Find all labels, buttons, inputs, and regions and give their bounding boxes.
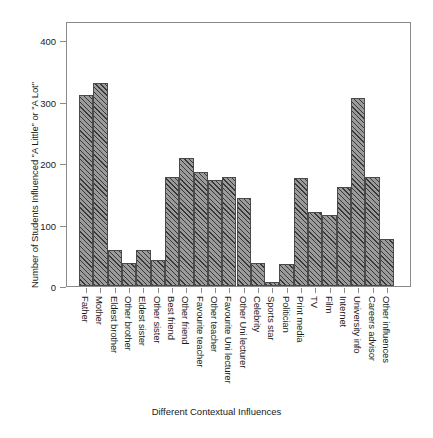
- bar-chart-figure: Number of Students Influenced "A Little"…: [0, 0, 433, 438]
- x-axis-title: Different Contextual Influences: [0, 406, 433, 417]
- x-axis-tick-label: Eldest sister: [137, 296, 147, 346]
- bar[interactable]: [179, 158, 193, 286]
- x-axis-tick-label: Other brother: [123, 296, 133, 351]
- x-axis-tick-label: Politician: [281, 296, 291, 333]
- bar[interactable]: [222, 177, 236, 286]
- x-axis-tick: [301, 288, 302, 293]
- x-axis-tick: [115, 288, 116, 293]
- x-axis-tick-label: Careers advisor: [367, 296, 377, 361]
- x-axis-tick: [86, 288, 87, 293]
- bar[interactable]: [136, 250, 150, 286]
- y-axis-tick-label: 300: [20, 98, 56, 108]
- x-axis-tick-label: Other teacher: [209, 296, 219, 352]
- bar[interactable]: [308, 212, 322, 286]
- plot-area: [66, 22, 411, 287]
- x-axis-tick-label: Favourite teacher: [195, 296, 205, 367]
- bar[interactable]: [294, 178, 308, 286]
- x-axis-tick-label: Sports star: [266, 296, 276, 340]
- y-axis-tick-label: 0: [20, 282, 56, 292]
- x-axis-tick: [244, 288, 245, 293]
- x-axis-tick-label: University info: [352, 296, 362, 353]
- x-axis-tick: [272, 288, 273, 293]
- bar[interactable]: [237, 198, 251, 286]
- x-axis-tick-label: Favourite Uni lecturer: [223, 296, 233, 384]
- x-axis-tick: [201, 288, 202, 293]
- x-axis-tick-label: Mother: [94, 296, 104, 325]
- x-axis-tick: [344, 288, 345, 293]
- x-axis-tick-label: Print media: [295, 296, 305, 342]
- x-axis-tick: [158, 288, 159, 293]
- bar[interactable]: [194, 172, 208, 286]
- bar[interactable]: [279, 264, 293, 286]
- x-axis-tick-label: Film: [324, 296, 334, 313]
- bar[interactable]: [351, 98, 365, 286]
- x-axis-tick: [287, 288, 288, 293]
- x-axis-tick: [315, 288, 316, 293]
- y-axis-tick-label: 200: [20, 159, 56, 169]
- bar[interactable]: [322, 215, 336, 286]
- x-axis-tick: [172, 288, 173, 293]
- x-axis-tick-label: Other Uni lecturer: [238, 296, 248, 368]
- x-axis-tick-label: Celebrity: [252, 296, 262, 332]
- x-axis-tick: [258, 288, 259, 293]
- y-axis-title-text: Number of Students Influenced "A Little"…: [29, 82, 40, 288]
- bar[interactable]: [122, 263, 136, 286]
- x-axis-tick: [330, 288, 331, 293]
- bar[interactable]: [93, 83, 107, 286]
- bar[interactable]: [337, 187, 351, 286]
- y-axis-tick: [60, 287, 66, 288]
- x-axis-tick-label: TV: [309, 296, 319, 308]
- x-axis-tick: [186, 288, 187, 293]
- x-axis-tick: [143, 288, 144, 293]
- bar[interactable]: [151, 260, 165, 286]
- x-axis-tick-label: Father: [80, 296, 90, 323]
- x-axis-tick: [373, 288, 374, 293]
- x-axis-tick: [387, 288, 388, 293]
- x-axis-tick-label: Best friend: [166, 296, 176, 340]
- y-axis-title: Number of Students Influenced "A Little"…: [18, 20, 32, 290]
- y-axis-tick-label: 100: [20, 221, 56, 231]
- bar[interactable]: [380, 239, 394, 286]
- x-axis-tick-label: Other friend: [180, 296, 190, 344]
- bar[interactable]: [79, 95, 93, 286]
- bar[interactable]: [165, 177, 179, 286]
- bar[interactable]: [108, 250, 122, 286]
- x-axis-tick-label: Internet: [338, 296, 348, 327]
- bar[interactable]: [251, 263, 265, 286]
- bars-group: [67, 23, 410, 286]
- bar[interactable]: [208, 180, 222, 286]
- x-axis-tick-label: Other sister: [152, 296, 162, 343]
- x-axis-tick-label: Other influences: [381, 296, 391, 363]
- x-axis-tick: [358, 288, 359, 293]
- x-axis-tick: [215, 288, 216, 293]
- bar[interactable]: [365, 177, 379, 286]
- x-axis-tick-label: Eldest brother: [109, 296, 119, 353]
- x-axis-tick: [100, 288, 101, 293]
- x-axis-tick: [229, 288, 230, 293]
- y-axis-tick-label: 400: [20, 36, 56, 46]
- bar[interactable]: [265, 282, 279, 286]
- x-axis-tick: [129, 288, 130, 293]
